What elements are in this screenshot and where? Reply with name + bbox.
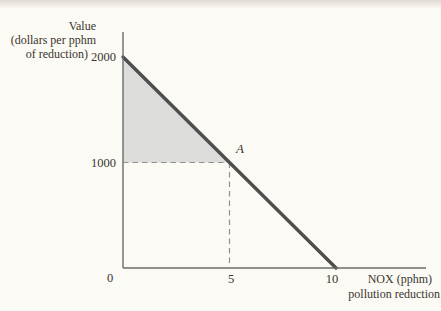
x-axis-title-line1: NOX (pphm) — [368, 272, 432, 286]
y-axis-title-line3: of reduction) — [26, 47, 88, 61]
y-tick-1000: 1000 — [91, 156, 116, 170]
x-axis-title-line2: pollution reduction — [348, 287, 440, 301]
y-axis-title-line1: Value — [69, 19, 96, 33]
y-axis-title-line2: (dollars per pphm — [11, 33, 97, 47]
point-a-label: A — [235, 141, 244, 156]
nox-demand-chart: Value (dollars per pphm of reduction) 20… — [0, 0, 441, 311]
economics-figure: Value (dollars per pphm of reduction) 20… — [0, 0, 441, 311]
y-tick-2000: 2000 — [91, 50, 116, 64]
x-tick-5: 5 — [228, 272, 234, 286]
page-top-edge-shading — [0, 0, 441, 9]
x-tick-0: 0 — [107, 271, 113, 285]
x-tick-10: 10 — [326, 272, 339, 286]
